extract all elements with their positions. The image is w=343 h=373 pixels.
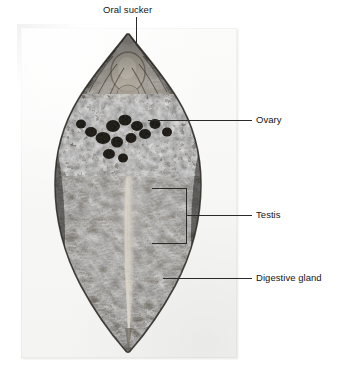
leader-line-testis [186,215,252,216]
anatomy-figure: Oral sucker Ovary Testis Digestive gland [0,0,343,373]
leader-line-digestive-gland [163,278,252,279]
specimen-image [21,28,237,358]
label-oral-sucker: Oral sucker [103,4,152,15]
label-ovary: Ovary [256,114,282,125]
specimen-body [21,28,237,358]
leader-line-ovary [148,120,252,121]
leader-bracket-testis-spine [186,188,187,244]
leader-bracket-testis-arm-top [152,188,187,189]
label-testis: Testis [256,209,281,220]
label-digestive-gland: Digestive gland [256,272,322,283]
leader-line-oral-sucker [136,17,137,43]
leader-bracket-testis-arm-bottom [152,243,187,244]
